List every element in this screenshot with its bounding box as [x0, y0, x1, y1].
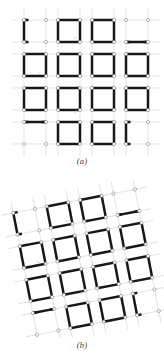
lattice-diagram-a: abcd: [0, 0, 164, 158]
figure-caption-b: (b): [0, 340, 164, 350]
svg-text:a: a: [74, 35, 77, 40]
svg-text:a: a: [65, 218, 69, 223]
figure-panel-a: abcd (a): [0, 0, 164, 180]
figure-panel-b: abcd (b): [0, 180, 164, 360]
svg-text:b: b: [37, 260, 41, 265]
lattice-diagram-b: abcd: [0, 180, 164, 338]
figure-caption-a: (a): [0, 156, 164, 166]
